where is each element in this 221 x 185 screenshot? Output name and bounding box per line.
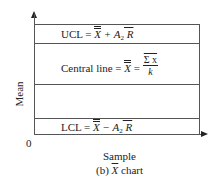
- central-text: Central line =: [61, 62, 124, 74]
- lcl-line: [34, 118, 199, 119]
- caption-suffix: chart: [118, 164, 143, 176]
- r-bar: R: [123, 121, 132, 133]
- caption-prefix: (b): [96, 164, 112, 176]
- numerator: Σ x: [143, 54, 158, 66]
- y-axis: [34, 14, 35, 135]
- lcl-text: LCL =: [61, 121, 93, 133]
- r-bar: R: [124, 28, 133, 40]
- y-axis-label: Mean: [13, 81, 25, 106]
- ucl-text: UCL =: [61, 28, 94, 40]
- fraction: Σ xk: [143, 54, 158, 77]
- caption: (b) X chart: [96, 165, 143, 176]
- x-double-bar: X: [124, 63, 131, 74]
- mid-lower-line: [34, 84, 199, 85]
- plus-a: + A: [101, 28, 120, 40]
- right-border: [199, 24, 200, 134]
- ucl-line: [34, 43, 199, 44]
- central-formula: Central line = X = Σ xk: [61, 62, 158, 77]
- x-double-bar: X: [93, 122, 100, 133]
- equals: =: [131, 62, 143, 74]
- x-axis-arrow-icon: [201, 131, 208, 137]
- lcl-formula: LCL = X − A2 R: [61, 122, 132, 135]
- minus-a: − A: [100, 121, 119, 133]
- x-double-bar: X: [94, 29, 101, 40]
- top-border: [34, 24, 199, 25]
- origin-label: 0: [26, 138, 32, 149]
- ucl-formula: UCL = X + A2 R: [61, 29, 133, 42]
- denominator: k: [143, 66, 158, 77]
- x-axis-label: Sample: [103, 151, 136, 162]
